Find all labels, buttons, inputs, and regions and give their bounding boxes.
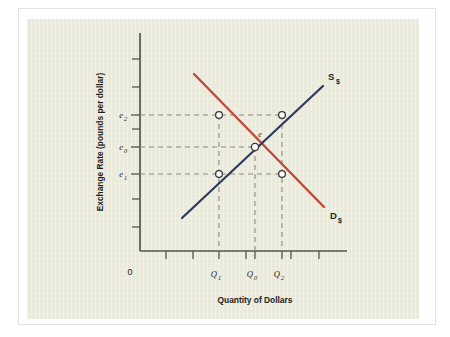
axes xyxy=(140,33,347,251)
svg-text:2: 2 xyxy=(281,274,284,281)
data-markers xyxy=(216,112,286,178)
marker-e2-demand xyxy=(216,112,223,119)
x-tick-labels: Q 1 Q 0 Q 2 xyxy=(211,269,284,281)
svg-text:$: $ xyxy=(336,78,340,86)
marker-e2-supply xyxy=(279,112,286,119)
svg-text:0: 0 xyxy=(124,147,128,154)
y-tick-label-e2: e 2 xyxy=(119,110,127,122)
marker-e1-supply xyxy=(216,171,223,178)
marker-equilibrium xyxy=(251,143,258,150)
svg-text:e: e xyxy=(119,142,123,152)
equilibrium-label: e xyxy=(258,130,262,139)
svg-text:0: 0 xyxy=(254,274,258,281)
svg-text:2: 2 xyxy=(124,115,127,122)
svg-text:Q: Q xyxy=(274,269,281,279)
svg-text:$: $ xyxy=(338,217,342,225)
x-tick-label-q2: Q 2 xyxy=(274,269,284,281)
supply-curve xyxy=(182,86,323,218)
origin-label: 0 xyxy=(127,267,132,277)
svg-text:e: e xyxy=(119,169,123,179)
svg-text:1: 1 xyxy=(124,174,127,181)
svg-text:S: S xyxy=(328,71,334,82)
svg-text:Q: Q xyxy=(247,269,254,279)
x-tick-label-q0: Q 0 xyxy=(247,269,258,281)
x-tick-label-q1: Q 1 xyxy=(211,269,221,281)
figure-panel: e e 2 e 0 e 1 Q 1 xyxy=(27,19,419,319)
svg-text:e: e xyxy=(119,110,123,120)
figure-page: e e 2 e 0 e 1 Q 1 xyxy=(0,0,450,337)
x-axis-ticks xyxy=(166,251,319,259)
svg-text:1: 1 xyxy=(218,274,221,281)
y-tick-label-e1: e 1 xyxy=(119,169,127,181)
x-axis-title: Quantity of Dollars xyxy=(218,295,293,305)
svg-text:D: D xyxy=(330,210,337,221)
y-tick-label-e0: e 0 xyxy=(119,142,128,154)
y-tick-labels: e 2 e 0 e 1 xyxy=(119,110,128,181)
exchange-rate-chart: e e 2 e 0 e 1 Q 1 xyxy=(27,19,419,319)
y-axis-title: Exchange Rate (pounds per dollar) xyxy=(95,72,105,211)
y-axis-ticks xyxy=(131,59,140,227)
supply-curve-label: S $ xyxy=(328,71,340,86)
demand-curve-label: D $ xyxy=(330,210,342,225)
svg-text:Q: Q xyxy=(211,269,218,279)
marker-e1-demand xyxy=(279,171,286,178)
